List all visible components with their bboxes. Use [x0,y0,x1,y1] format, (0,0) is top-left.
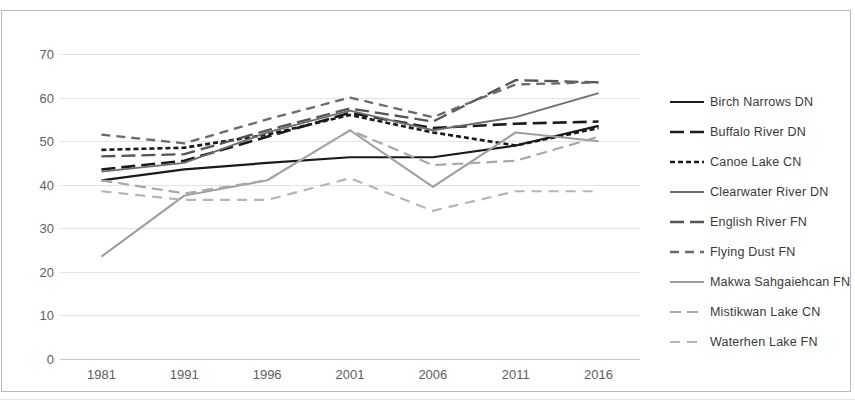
x-tick-label: 2016 [584,367,613,382]
y-tick-label: 30 [14,221,54,236]
chart-legend: Birch Narrows DNBuffalo River DNCanoe La… [670,87,850,357]
legend-label: Flying Dust FN [710,245,795,259]
legend-label: Makwa Sahgaiehcan FN [710,275,850,289]
legend-label: Canoe Lake CN [710,155,802,169]
series-line [101,178,598,211]
legend-line-swatch-icon [670,185,704,199]
legend-line-swatch-icon [670,335,704,349]
legend-label: Mistikwan Lake CN [710,305,820,319]
y-tick-label: 60 [14,90,54,105]
x-axis: 1981199119962001200620112016 [60,367,640,387]
legend-line-swatch-icon [670,215,704,229]
series-line [101,130,598,256]
series-line [101,113,598,170]
y-tick-label: 0 [14,352,54,367]
legend-line-swatch-icon [670,155,704,169]
x-tick-label: 1996 [253,367,282,382]
legend-label: Clearwater River DN [710,185,828,199]
y-tick-label: 40 [14,177,54,192]
page-bottom-edge [0,399,855,400]
chart-screenshot: 010203040506070 198119911996200120062011… [0,0,855,403]
plot-area [60,54,640,359]
series-layer [60,54,640,359]
legend-item[interactable]: Buffalo River DN [670,117,850,147]
chart-frame: 010203040506070 198119911996200120062011… [1,10,851,392]
legend-line-swatch-icon [670,125,704,139]
legend-item[interactable]: Flying Dust FN [670,237,850,267]
legend-label: Birch Narrows DN [710,95,813,109]
legend-item[interactable]: Makwa Sahgaiehcan FN [670,267,850,297]
legend-label: Waterhen Lake FN [710,335,818,349]
legend-item[interactable]: Canoe Lake CN [670,147,850,177]
y-tick-label: 10 [14,308,54,323]
x-axis-line [60,359,640,360]
legend-item[interactable]: Clearwater River DN [670,177,850,207]
legend-label: Buffalo River DN [710,125,806,139]
legend-item[interactable]: Birch Narrows DN [670,87,850,117]
legend-line-swatch-icon [670,95,704,109]
y-tick-label: 70 [14,47,54,62]
legend-item[interactable]: Mistikwan Lake CN [670,297,850,327]
legend-line-swatch-icon [670,275,704,289]
legend-line-swatch-icon [670,305,704,319]
x-tick-label: 2011 [502,367,530,382]
x-tick-label: 1991 [170,367,199,382]
legend-item[interactable]: Waterhen Lake FN [670,327,850,357]
x-tick-label: 1981 [87,367,116,382]
legend-label: English River FN [710,215,807,229]
legend-line-swatch-icon [670,245,704,259]
y-tick-label: 50 [14,134,54,149]
x-tick-label: 2006 [418,367,447,382]
y-axis: 010203040506070 [10,54,54,359]
y-tick-label: 20 [14,264,54,279]
legend-item[interactable]: English River FN [670,207,850,237]
x-tick-label: 2001 [336,367,365,382]
series-line [101,130,598,193]
